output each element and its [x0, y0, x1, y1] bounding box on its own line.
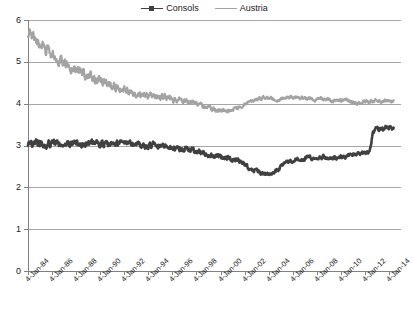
data-series-layer — [28, 29, 394, 175]
y-axis-tick-label: 2 — [3, 183, 21, 192]
y-axis-tick-label: 0 — [3, 267, 21, 276]
y-axis-tick-label: 1 — [3, 225, 21, 234]
series-line-consols — [28, 126, 394, 175]
y-axis-tick-label: 5 — [3, 57, 21, 66]
gridlines — [28, 21, 401, 230]
y-axis-tick-label: 4 — [3, 99, 21, 108]
y-axis-tick-label: 3 — [3, 141, 21, 150]
y-axis-tick-label: 6 — [3, 16, 21, 25]
series-line-austria — [28, 29, 394, 112]
